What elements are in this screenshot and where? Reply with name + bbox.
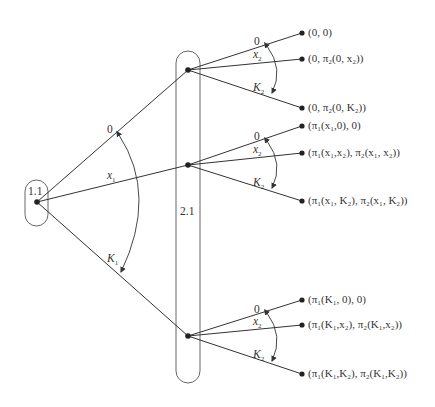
payoff-6: (π₁(x₁, K₂), π₂(x₁, K₂)) — [308, 195, 407, 206]
terminal-node — [299, 56, 304, 61]
payoff-2: (0, π₂(0, x₂)) — [308, 53, 363, 64]
p2-b-action-label-x2: x2 — [253, 144, 262, 158]
payoff-4: (π₁(x₁,0), 0) — [308, 120, 361, 131]
p2-node-c — [185, 333, 191, 339]
terminal-node — [299, 123, 304, 128]
p2-node-b — [185, 162, 191, 168]
terminal-node — [299, 297, 304, 302]
p1-action-label-K1: K1 — [107, 253, 118, 267]
terminal-node — [299, 198, 304, 203]
payoff-3: (0, π₂(0, K₂)) — [308, 102, 366, 113]
root-node — [34, 199, 40, 205]
terminal-node — [299, 105, 304, 110]
p1-action-range-arc — [119, 135, 139, 272]
p2-b-action-label-K2: K2 — [253, 177, 264, 191]
payoff-9: (π₁(K₁,K₂), π₂(K₁,K₂)) — [308, 368, 407, 379]
payoff-1: (0, 0) — [308, 27, 332, 38]
p1-action-label-x1: x1 — [107, 170, 116, 184]
p2-c-action-label-x2: x2 — [253, 316, 262, 330]
branch-p2-c-K2 — [188, 336, 302, 374]
info-set-1-1-label: 1.1 — [28, 186, 42, 198]
terminal-node — [299, 371, 304, 376]
p2-a-action-range-arc — [267, 46, 277, 93]
p2-c-action-range-arc — [267, 313, 277, 361]
p2-c-action-label-0: 0 — [254, 304, 260, 316]
terminal-node — [299, 150, 304, 155]
p2-a-action-label-0: 0 — [254, 36, 260, 48]
branch-p2-b-K2 — [188, 165, 302, 201]
p2-c-action-label-K2: K2 — [253, 349, 264, 363]
p2-a-action-label-x2: x2 — [253, 49, 262, 63]
p2-node-a — [185, 67, 191, 73]
p2-a-action-label-K2: K2 — [253, 82, 264, 96]
payoff-7: (π₁(K₁, 0), 0) — [308, 294, 366, 305]
p1-action-label-0: 0 — [107, 124, 113, 136]
terminal-node — [299, 322, 304, 327]
branch-p1-K1 — [37, 202, 188, 336]
p2-b-action-label-0: 0 — [254, 131, 260, 143]
payoff-5: (π₁(x₁,x₂), π₂(x₁, x₂)) — [308, 147, 400, 158]
payoff-8: (π₁(K₁,x₂), π₂(K₁,x₂)) — [308, 319, 402, 330]
p2-b-action-range-arc — [267, 141, 277, 188]
branch-p2-a-K2 — [188, 70, 302, 108]
terminal-node — [299, 30, 304, 35]
info-set-2-1-label: 2.1 — [180, 206, 194, 218]
